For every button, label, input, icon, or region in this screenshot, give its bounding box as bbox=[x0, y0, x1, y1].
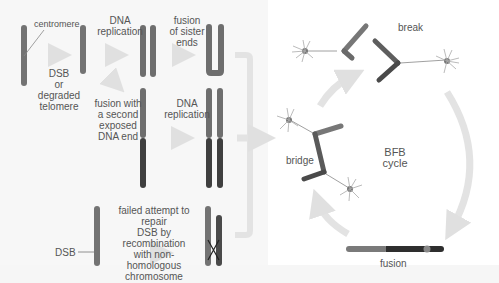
label-bfb-cycle: BFB cycle bbox=[380, 147, 410, 169]
chromosome-sister-fusion bbox=[209, 27, 221, 73]
label-bridge: bridge bbox=[286, 155, 314, 166]
diagram-graphics bbox=[0, 0, 499, 283]
chromosome-translocation bbox=[205, 206, 222, 266]
spindle-pole-4 bbox=[340, 177, 362, 201]
arrow-3 bbox=[108, 76, 116, 84]
break-left-half bbox=[306, 26, 366, 58]
bracket bbox=[235, 55, 250, 235]
label-dna-replication-1: DNA replication bbox=[95, 15, 145, 37]
label-centromere: centromere bbox=[34, 19, 80, 30]
break-right-half bbox=[375, 41, 446, 80]
spindle-pole-2 bbox=[436, 49, 459, 73]
label-break: break bbox=[398, 22, 423, 33]
label-dsb: DSB bbox=[55, 247, 76, 258]
bridge-chromosome bbox=[290, 120, 349, 188]
label-failed-attempt: failed attempt to repair DSB by recombin… bbox=[108, 205, 200, 282]
chromosome-broken bbox=[80, 25, 86, 74]
label-fusion: fusion bbox=[380, 258, 407, 269]
cycle-arrow-right bbox=[447, 92, 470, 228]
label-dna-replication-2: DNA replication bbox=[162, 98, 212, 120]
fusion-chromosome bbox=[346, 246, 444, 253]
label-fusion-second-end: fusion with a second exposed DNA end bbox=[88, 98, 148, 142]
spindle-pole-3 bbox=[277, 108, 298, 132]
cycle-arrow-left bbox=[318, 202, 348, 234]
label-dsb-or-degraded: DSB or degraded telomere bbox=[34, 68, 84, 112]
chromosome-dsb bbox=[94, 206, 100, 266]
cycle-arrow-top bbox=[320, 76, 352, 106]
label-fusion-sister-ends: fusion of sister ends bbox=[165, 15, 209, 48]
